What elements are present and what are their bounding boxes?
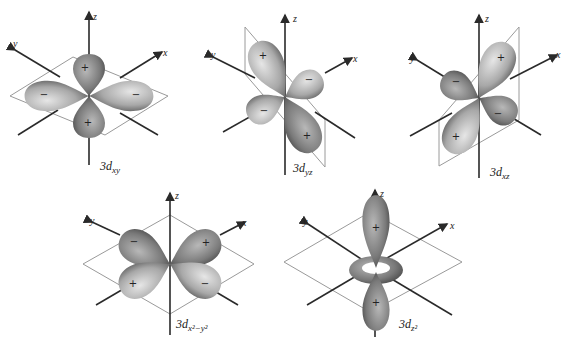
panel-3dz2: + + z x y 3dz² xyxy=(284,188,462,337)
z-label: z xyxy=(174,190,179,201)
z-label: z xyxy=(484,13,489,24)
sign: − xyxy=(132,89,140,100)
sign: + xyxy=(452,131,460,142)
y-label: y xyxy=(89,215,95,226)
lobe-left xyxy=(25,81,89,111)
sign: + xyxy=(202,237,210,248)
orbital-diagram: + + − − z x y 3dxy + − − + z x y 3dyz xyxy=(0,0,564,343)
sign: + xyxy=(84,117,92,128)
caption-3dxz: 3dxz xyxy=(489,165,510,181)
sign: − xyxy=(260,105,268,116)
y-axis-neg xyxy=(216,292,238,305)
caption-3dz2: 3dz² xyxy=(398,317,418,333)
sign: − xyxy=(452,76,460,87)
y-axis-neg xyxy=(120,113,158,135)
y-axis xyxy=(15,50,60,77)
sign: − xyxy=(201,278,209,289)
y-label: y xyxy=(210,49,216,60)
x-axis xyxy=(120,52,162,78)
caption-3dx2y2: 3dx²−y² xyxy=(175,317,208,333)
sign: + xyxy=(372,297,380,308)
x-axis xyxy=(380,224,447,262)
y-label: y xyxy=(409,53,415,64)
sign: − xyxy=(130,236,138,247)
sign: + xyxy=(129,278,137,289)
panel-3dxy: + + − − z x y 3dxy xyxy=(10,11,168,175)
sign: + xyxy=(303,130,311,141)
sign: − xyxy=(305,74,313,85)
caption-3dxy: 3dxy xyxy=(99,159,120,175)
sign: − xyxy=(40,89,48,100)
x-label: x xyxy=(162,47,168,58)
panel-3dx2y2: − + + − z x y 3dx²−y² xyxy=(83,190,254,335)
sign: + xyxy=(81,62,89,73)
panel-3dxz: + − − + z x y 3dxz xyxy=(409,13,561,181)
x-axis xyxy=(510,55,557,79)
caption-3dyz: 3dyz xyxy=(292,161,313,177)
x-label: x xyxy=(241,217,247,228)
sign: + xyxy=(259,50,267,61)
z-label: z xyxy=(292,13,297,24)
z-label: z xyxy=(379,188,384,199)
sign: − xyxy=(494,108,502,119)
x-axis-neg xyxy=(96,288,125,305)
x-label: x xyxy=(449,220,455,231)
y-label: y xyxy=(302,216,308,227)
x-axis-neg xyxy=(18,110,58,135)
sign: + xyxy=(372,222,380,233)
x-label: x xyxy=(555,49,561,60)
y-axis xyxy=(92,222,120,235)
lobe-top xyxy=(73,54,105,96)
x-axis xyxy=(325,58,352,73)
y-label: y xyxy=(12,38,18,49)
x-label: x xyxy=(352,53,358,64)
panel-3dyz: + − − + z x y 3dyz xyxy=(210,13,358,177)
lobe-right xyxy=(89,81,153,111)
z-label: z xyxy=(92,11,97,22)
sign: + xyxy=(497,52,505,63)
